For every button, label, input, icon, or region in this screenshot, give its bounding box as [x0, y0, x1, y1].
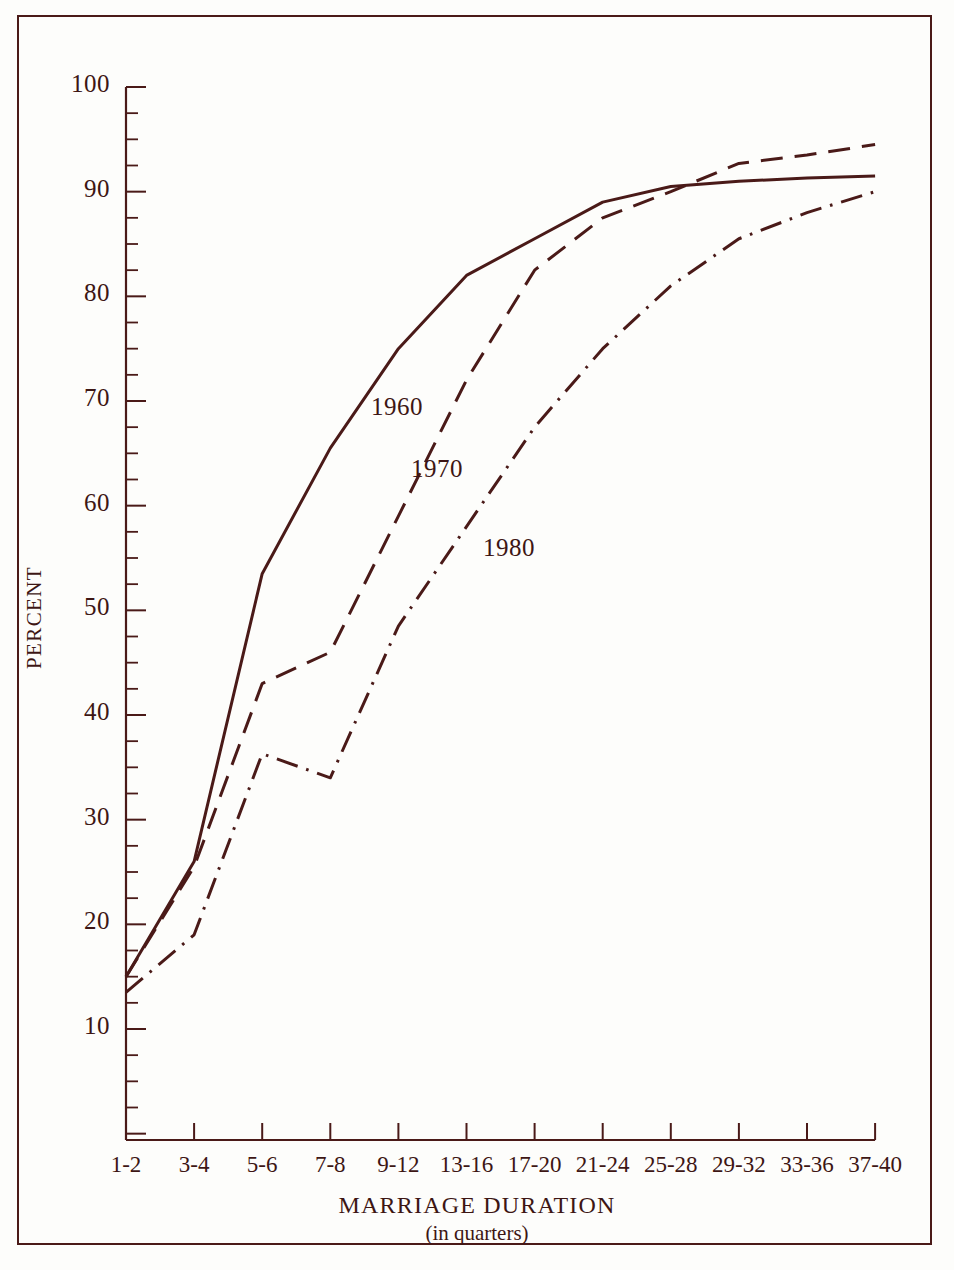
axes-group [126, 87, 875, 1140]
y-tick-label: 70 [54, 384, 110, 412]
chart-figure: 100908070605040302010 1-23-45-67-89-1213… [0, 0, 954, 1270]
series-line-1960 [126, 176, 875, 977]
y-tick-label: 40 [54, 698, 110, 726]
x-axis-title: MARRIAGE DURATION [0, 1192, 954, 1219]
y-tick-label: 10 [54, 1012, 110, 1040]
y-tick-label: 90 [54, 175, 110, 203]
series-label-1970: 1970 [411, 455, 463, 483]
series-label-1960: 1960 [371, 393, 423, 421]
y-tick-label: 100 [54, 70, 110, 98]
y-axis-title: PERCENT [22, 548, 47, 688]
x-axis-subtitle: (in quarters) [0, 1221, 954, 1246]
x-tick-label: 37-40 [830, 1152, 920, 1178]
y-tick-label: 20 [54, 907, 110, 935]
y-tick-label: 30 [54, 803, 110, 831]
y-tick-label: 50 [54, 593, 110, 621]
series-line-1980 [126, 192, 875, 993]
chart-plot-area [0, 0, 954, 1270]
y-tick-label: 60 [54, 489, 110, 517]
series-label-1980: 1980 [483, 534, 535, 562]
series-group [126, 145, 875, 993]
y-tick-label: 80 [54, 279, 110, 307]
